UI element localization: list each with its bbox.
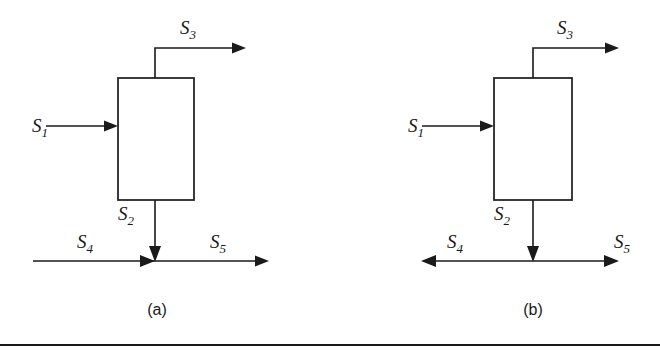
unit-box-b [494,78,572,200]
stream-s3-line-b [533,48,612,78]
stream-s2-label-b: S2 [494,203,511,228]
stream-s5-arrowhead-a [255,256,269,267]
stream-s1-label-a: S1 [32,115,48,140]
stream-s3-arrowhead-b [605,43,619,54]
panel-a: S1 S3 S2 S4 S5 (a) [32,17,269,318]
stream-s2-arrowhead-b [527,246,539,262]
stream-s4-label-b: S4 [447,231,464,256]
stream-s4-arrowhead-b [421,255,436,267]
stream-s4-label-a: S4 [77,231,94,256]
stream-s1-label-b: S1 [408,115,424,140]
stream-s4-arrowhead-a [140,255,155,267]
stream-s2-label-a: S2 [118,203,135,228]
stream-s1-arrowhead-b [480,121,494,132]
process-flow-figure: S1 S3 S2 S4 S5 (a) S1 S3 [0,0,660,355]
stream-s5-label-b: S5 [614,231,631,256]
unit-box-a [118,78,194,200]
panel-b: S1 S3 S2 S4 S5 (b) [408,17,631,318]
stream-s3-line-a [155,48,239,78]
stream-s1-arrowhead-a [104,121,118,132]
stream-s3-label-a: S3 [180,17,197,42]
panel-b-caption: (b) [523,301,543,318]
panel-a-caption: (a) [147,301,167,318]
stream-s3-arrowhead-a [232,43,246,54]
stream-s5-label-a: S5 [210,231,227,256]
stream-s3-label-b: S3 [557,17,574,42]
stream-s5-arrowhead-b [604,255,619,267]
